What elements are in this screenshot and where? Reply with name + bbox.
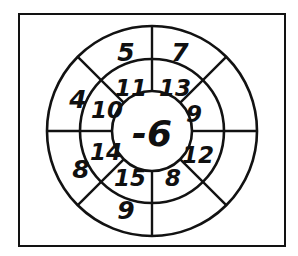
number-wheel-svg: 11 13 9 12 8 15 14 10 5 7 9 8 4 -6 bbox=[0, 0, 298, 256]
middle-cell-left-lower: 14 bbox=[90, 139, 122, 165]
outer-cell-left-upper: 4 bbox=[68, 85, 86, 114]
middle-cell-bottom-left: 15 bbox=[114, 165, 146, 191]
middle-cell-left-upper: 10 bbox=[91, 97, 123, 123]
outer-cell-left-lower: 8 bbox=[72, 155, 89, 184]
outer-cell-bottom-left: 9 bbox=[117, 196, 134, 225]
middle-cell-right-upper: 9 bbox=[186, 101, 202, 127]
middle-cell-top-right: 13 bbox=[159, 75, 191, 101]
middle-cell-bottom-right: 8 bbox=[165, 165, 181, 191]
center-value: -6 bbox=[132, 113, 172, 154]
outer-cell-top-left: 5 bbox=[117, 38, 134, 67]
number-wheel: 11 13 9 12 8 15 14 10 5 7 9 8 4 -6 bbox=[0, 0, 298, 256]
middle-cell-right-lower: 12 bbox=[182, 142, 214, 168]
outer-cell-top-right: 7 bbox=[171, 38, 189, 67]
page-root: 11 13 9 12 8 15 14 10 5 7 9 8 4 -6 bbox=[0, 0, 298, 256]
